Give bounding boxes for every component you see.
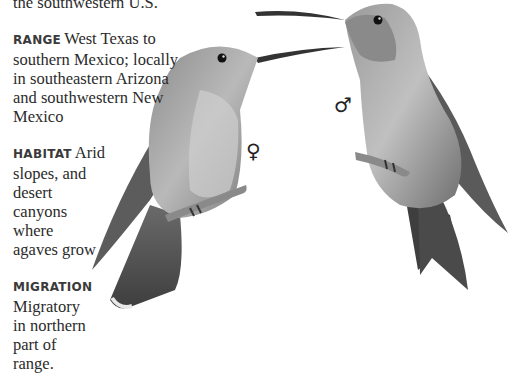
male-hummingbird <box>255 4 508 290</box>
female-symbol-icon: ♀ <box>246 141 261 161</box>
habitat-section: HABITATArid slopes, and desert canyons w… <box>13 143 98 259</box>
species-info-text: the southwestern U.S. RANGEWest Texas to… <box>13 0 253 377</box>
range-section: RANGEWest Texas to southern Mexico; loca… <box>13 29 183 126</box>
migration-text: Migratory in northern part of range. <box>13 297 86 373</box>
intro-line: the southwestern U.S. <box>13 0 158 12</box>
male-symbol-icon: ♂ <box>334 95 352 115</box>
intro-text: the southwestern U.S. <box>13 0 253 12</box>
migration-section: MIGRATIONMigratory in northern part of r… <box>13 276 88 373</box>
habitat-label: HABITAT <box>13 147 72 161</box>
migration-label: MIGRATION <box>13 280 92 294</box>
range-label: RANGE <box>13 33 61 47</box>
